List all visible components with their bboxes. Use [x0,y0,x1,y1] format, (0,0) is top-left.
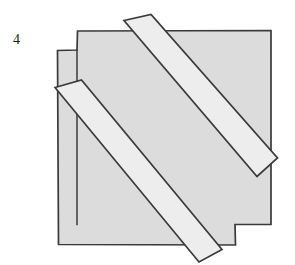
figure-container: 4 [0,0,295,265]
figure-svg [0,0,295,265]
figure-number-label: 4 [13,32,20,48]
